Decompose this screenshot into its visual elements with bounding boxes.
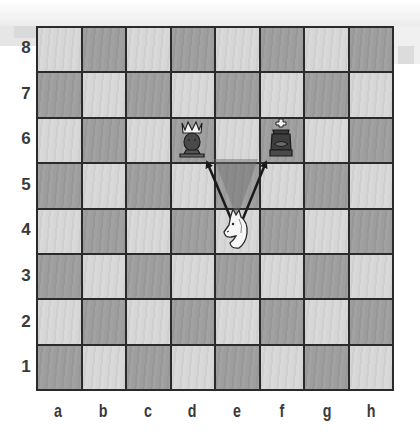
file-label-d: d [176, 400, 209, 422]
square-e7[interactable] [215, 72, 260, 117]
rank-label-5: 5 [18, 175, 34, 195]
rank-label-6: 6 [18, 129, 34, 149]
square-e3[interactable] [215, 254, 260, 299]
square-h7[interactable] [349, 72, 394, 117]
square-a2[interactable] [37, 299, 82, 344]
right-header-stripe-accent [398, 46, 414, 64]
square-d1[interactable] [171, 345, 216, 390]
square-h5[interactable] [349, 163, 394, 208]
square-h2[interactable] [349, 299, 394, 344]
left-header-stripe-accent [14, 26, 36, 38]
square-a4[interactable] [37, 209, 82, 254]
file-label-b: b [86, 400, 119, 422]
square-c5[interactable] [126, 163, 171, 208]
file-label-f: f [265, 400, 298, 422]
square-d4[interactable] [171, 209, 216, 254]
square-c7[interactable] [126, 72, 171, 117]
square-g3[interactable] [304, 254, 349, 299]
square-f4[interactable] [260, 209, 305, 254]
square-e6[interactable] [215, 118, 260, 163]
square-g5[interactable] [304, 163, 349, 208]
rank-label-3: 3 [18, 266, 34, 286]
square-b5[interactable] [82, 163, 127, 208]
square-b4[interactable] [82, 209, 127, 254]
square-h8[interactable] [349, 27, 394, 72]
file-label-g: g [310, 400, 343, 422]
square-d7[interactable] [171, 72, 216, 117]
square-g1[interactable] [304, 345, 349, 390]
square-f3[interactable] [260, 254, 305, 299]
knight-icon [219, 207, 253, 251]
piece-black-queen-d6[interactable] [170, 116, 214, 161]
square-c4[interactable] [126, 209, 171, 254]
square-f5[interactable] [260, 163, 305, 208]
rank-label-7: 7 [18, 84, 34, 104]
square-f1[interactable] [260, 345, 305, 390]
piece-white-knight-e4[interactable] [214, 206, 258, 251]
square-g7[interactable] [304, 72, 349, 117]
square-e5[interactable] [215, 163, 260, 208]
square-c8[interactable] [126, 27, 171, 72]
square-f2[interactable] [260, 299, 305, 344]
square-g2[interactable] [304, 299, 349, 344]
square-f7[interactable] [260, 72, 305, 117]
square-d5[interactable] [171, 163, 216, 208]
file-label-e: e [221, 400, 254, 422]
square-a6[interactable] [37, 118, 82, 163]
king-icon [264, 118, 298, 160]
square-d8[interactable] [171, 27, 216, 72]
square-h1[interactable] [349, 345, 394, 390]
square-f8[interactable] [260, 27, 305, 72]
square-e1[interactable] [215, 345, 260, 390]
rank-label-8: 8 [18, 38, 34, 58]
square-g6[interactable] [304, 118, 349, 163]
file-label-a: a [42, 400, 75, 422]
square-g8[interactable] [304, 27, 349, 72]
square-e8[interactable] [215, 27, 260, 72]
square-b6[interactable] [82, 118, 127, 163]
square-b2[interactable] [82, 299, 127, 344]
square-a7[interactable] [37, 72, 82, 117]
square-a8[interactable] [37, 27, 82, 72]
square-g4[interactable] [304, 209, 349, 254]
square-b8[interactable] [82, 27, 127, 72]
square-b1[interactable] [82, 345, 127, 390]
square-b3[interactable] [82, 254, 127, 299]
square-a5[interactable] [37, 163, 82, 208]
square-d2[interactable] [171, 299, 216, 344]
queen-icon [175, 119, 209, 159]
square-c6[interactable] [126, 118, 171, 163]
square-c2[interactable] [126, 299, 171, 344]
square-a3[interactable] [37, 254, 82, 299]
square-a1[interactable] [37, 345, 82, 390]
file-label-h: h [355, 400, 388, 422]
square-b7[interactable] [82, 72, 127, 117]
rank-label-4: 4 [18, 220, 34, 240]
rank-label-2: 2 [18, 312, 34, 332]
top-margin [0, 0, 420, 26]
square-h6[interactable] [349, 118, 394, 163]
rank-label-1: 1 [18, 357, 34, 377]
square-h4[interactable] [349, 209, 394, 254]
square-h3[interactable] [349, 254, 394, 299]
piece-black-king-f6[interactable] [259, 116, 303, 161]
file-label-c: c [131, 400, 164, 422]
square-d3[interactable] [171, 254, 216, 299]
square-c3[interactable] [126, 254, 171, 299]
square-e2[interactable] [215, 299, 260, 344]
square-c1[interactable] [126, 345, 171, 390]
